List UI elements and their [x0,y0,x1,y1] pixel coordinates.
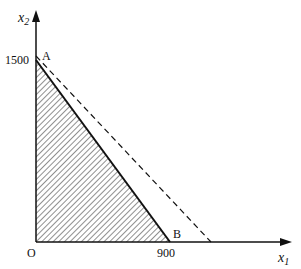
y-tick-label: 1500 [5,53,29,67]
lp-diagram: x2 x1 1500 900 O A B [0,0,301,269]
x-tick-label: 900 [157,246,175,260]
point-B-label: B [173,227,181,241]
x-axis-label: x1 [277,250,289,267]
y-axis-label: x2 [17,10,29,27]
point-A-label: A [42,49,51,63]
x-axis-arrow-icon [280,238,292,246]
y-axis-arrow-icon [32,10,40,22]
origin-label: O [27,246,36,260]
